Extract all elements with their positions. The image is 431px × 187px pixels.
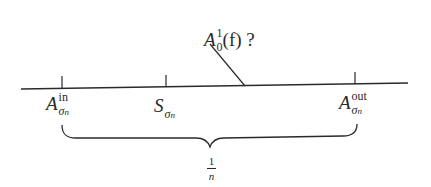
brace-label-fraction: 1 n: [207, 155, 216, 182]
pointer-label-sup: 1: [217, 27, 223, 39]
pointer-label: A10(f) ?: [204, 30, 255, 54]
tick-label-s: Sσn: [154, 96, 175, 115]
tick-label-sup: in: [59, 91, 69, 103]
pointer-label-sub: 0: [217, 41, 223, 53]
tick-label-sup: out: [352, 90, 367, 102]
tick-label-base: A: [339, 92, 351, 113]
tick-label-base: S: [154, 95, 164, 116]
tick-label-base: A: [46, 93, 58, 114]
fraction-denominator: n: [209, 170, 215, 182]
tick-label-a-in: Ainσn: [46, 94, 69, 118]
tick-label-sub-sub: n: [358, 106, 363, 116]
axis-line: [21, 83, 408, 89]
fraction-numerator: 1: [209, 155, 215, 167]
tick-label-a-out: Aoutσn: [339, 93, 367, 117]
curly-brace: [62, 124, 357, 147]
tick-label-sub-sub: n: [65, 107, 70, 117]
tick-label-sub-sub: n: [170, 110, 175, 120]
fraction-bar: [207, 168, 216, 169]
pointer-label-arg: (f): [223, 29, 242, 50]
diagram-canvas: A10(f) ? Ainσn Sσn Aoutσn 1 n: [0, 0, 431, 187]
pointer-label-base: A: [204, 29, 216, 50]
pointer-label-question: ?: [246, 29, 254, 50]
